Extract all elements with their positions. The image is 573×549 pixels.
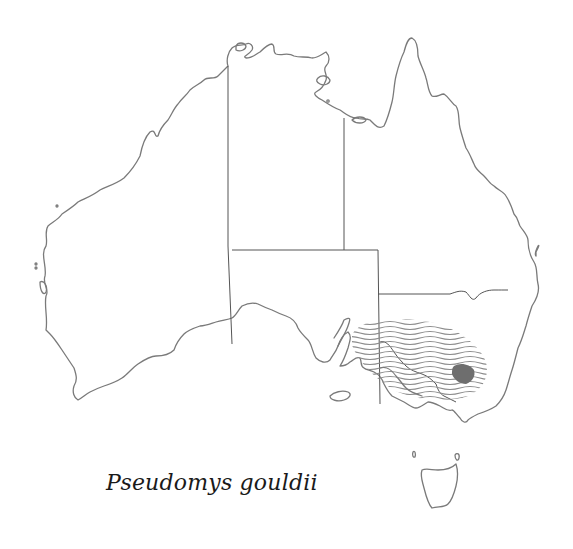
king-island [413, 451, 416, 457]
wa-island-2 [35, 267, 37, 269]
border-qld-nsw [378, 290, 508, 299]
kangaroo-island [330, 391, 350, 401]
wa-island-3 [56, 205, 58, 207]
mornington-island [352, 117, 366, 123]
historical-range-hatch [340, 317, 500, 400]
australia-distribution-map [0, 0, 573, 549]
border-wa [228, 66, 232, 344]
groote-eylandt [317, 76, 330, 85]
species-name-caption: Pseudomys gouldii [106, 470, 318, 495]
tasmania [421, 464, 457, 508]
wa-island-1 [35, 263, 37, 265]
wellesley-island [327, 100, 329, 102]
border-sa-east [378, 250, 380, 404]
melville-island [236, 43, 246, 51]
flinders-island [455, 454, 459, 461]
fraser-island [535, 245, 539, 256]
